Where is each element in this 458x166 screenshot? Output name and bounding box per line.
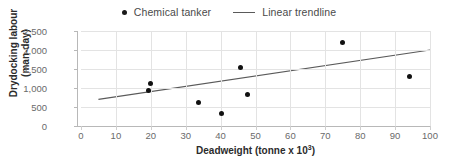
y-axis-tick [74,126,77,127]
x-gridline [290,31,291,126]
y-axis-tick-label: 1,500 [0,64,47,75]
chart-legend: Chemical tanker Linear trendline [0,2,458,22]
y-axis-tick-label: 500 [0,102,47,113]
legend-item-linear-trendline[interactable]: Linear trendline [233,6,336,18]
y-axis-tick [74,69,77,70]
data-point[interactable] [148,81,153,86]
x-axis-line [77,126,431,127]
y-axis-tick-label: 2,000 [0,45,47,56]
y-axis-tick [74,107,77,108]
data-point[interactable] [245,92,250,97]
x-axis-title-tail: ) [312,145,315,156]
legend-label-chemical-tanker: Chemical tanker [134,6,211,18]
x-axis-title-base: Deadweight (tonne x 10 [196,145,308,156]
x-gridline [256,31,257,126]
plot-area: 05001,0001,5002,0002,5000102030405060708… [81,31,430,126]
legend-item-chemical-tanker[interactable]: Chemical tanker [122,6,211,18]
x-gridline [430,31,431,126]
legend-line-marker-icon [233,12,255,13]
y-axis-tick [74,88,77,89]
x-gridline [395,31,396,126]
x-axis-tick-label: 100 [410,130,450,141]
x-gridline [151,31,152,126]
y-axis-tick-label: 1,000 [0,83,47,94]
chart-figure: Chemical tanker Linear trendline Drydock… [0,0,458,166]
y-axis-tick-label: 0 [0,121,47,132]
data-point[interactable] [146,88,151,93]
y-axis-tick [74,31,77,32]
x-gridline [186,31,187,126]
x-axis-title: Deadweight (tonne x 103) [81,144,430,156]
legend-label-linear-trendline: Linear trendline [262,6,336,18]
legend-dot-marker-icon [122,10,127,15]
y-axis-tick [74,50,77,51]
x-gridline [325,31,326,126]
y-axis-tick-label: 2,500 [0,26,47,37]
x-gridline [116,31,117,126]
data-point[interactable] [238,65,243,70]
x-gridline [360,31,361,126]
y-axis-line [77,31,78,127]
